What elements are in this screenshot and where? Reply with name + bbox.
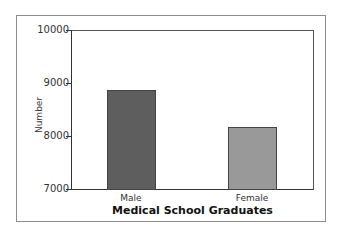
ytick-label: 9000: [44, 78, 69, 88]
x-category-label: Female: [222, 193, 282, 203]
bar-male: [107, 90, 156, 190]
x-axis-title: Medical School Graduates: [71, 204, 314, 217]
ytick-label: 7000: [44, 184, 69, 194]
ytick-label: 10000: [37, 25, 69, 35]
y-axis-title: Number: [34, 90, 44, 140]
x-category-label: Male: [101, 193, 161, 203]
ytick-label: 8000: [44, 131, 69, 141]
bar-female: [228, 127, 277, 190]
